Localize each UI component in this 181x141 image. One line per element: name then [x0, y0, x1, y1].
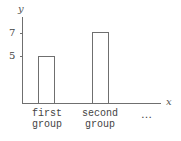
- y-axis-label: y: [18, 4, 24, 14]
- y-tick-7: [20, 33, 23, 34]
- x-axis: [22, 103, 161, 104]
- bar-first-group: [38, 56, 55, 103]
- y-tick-5: [20, 56, 23, 57]
- y-tick-label-7: 7: [9, 28, 15, 38]
- y-tick-label-5: 5: [9, 51, 15, 61]
- category-label-second-group: second group: [75, 108, 125, 130]
- x-axis-label: x: [166, 97, 172, 107]
- bar-chart: y 7 5 x first group second group …: [0, 0, 181, 141]
- more-categories-ellipsis: …: [141, 108, 153, 121]
- y-axis: [22, 17, 23, 104]
- bar-second-group: [92, 32, 109, 103]
- category-label-first-group: first group: [22, 108, 72, 130]
